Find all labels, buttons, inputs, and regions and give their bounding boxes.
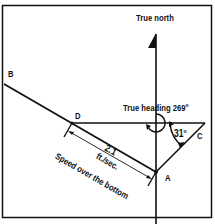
point-a-label: A bbox=[165, 174, 171, 183]
angle-label: 31o bbox=[174, 128, 187, 139]
point-b-label: B bbox=[8, 70, 14, 79]
angle-arrow-start-icon bbox=[169, 121, 174, 127]
true-heading-text: True heading 269 bbox=[123, 103, 186, 113]
true-north-label: True north bbox=[136, 14, 174, 23]
heading-degree-symbol: o bbox=[186, 102, 189, 108]
north-arrow-icon bbox=[148, 33, 156, 48]
dimension-arrow-left-icon bbox=[68, 131, 74, 135]
dimension-tick-d bbox=[64, 123, 72, 137]
vector-diagram: True north True heading 269o 31o B D C A… bbox=[0, 0, 215, 224]
angle-value: 31 bbox=[174, 128, 183, 139]
line-b-a bbox=[4, 84, 156, 172]
angle-degree-symbol: o bbox=[183, 128, 186, 134]
point-c-label: C bbox=[197, 132, 203, 141]
dimension-arrow-right-icon bbox=[146, 175, 152, 179]
point-d-label: D bbox=[75, 112, 81, 121]
true-heading-label: True heading 269o bbox=[123, 102, 189, 113]
